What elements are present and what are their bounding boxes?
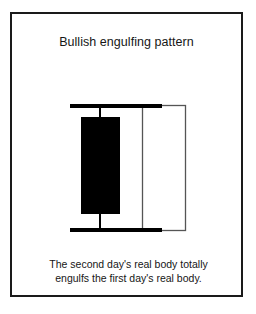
caption-line-1: The second day's real body totally (18, 257, 239, 271)
figure-caption: The second day's real body totally engul… (18, 257, 239, 285)
filled-candle-body-icon (81, 117, 120, 214)
figure-frame: Bullish engulfing pattern The second day… (10, 12, 243, 297)
open-close-top-rule (70, 104, 162, 108)
hollow-candle-body-icon (143, 106, 186, 231)
caption-line-2: engulfs the first day's real body. (18, 271, 239, 285)
open-close-bottom-rule (70, 228, 162, 232)
lower-shadow-icon (99, 213, 101, 230)
